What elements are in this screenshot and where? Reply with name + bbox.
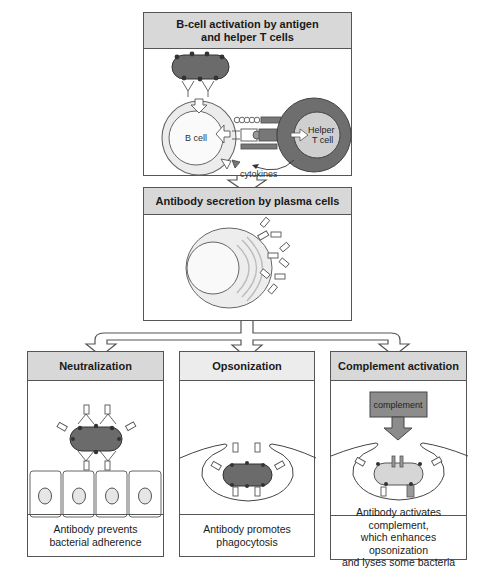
b-cell-activation-illustration: B cell Helper T cell cytokine — [144, 49, 353, 177]
plasma-cell-icon — [186, 228, 272, 308]
complement-inset-label: complement — [373, 400, 423, 410]
complement-header: Complement activation — [331, 352, 466, 381]
complement-caption-line3: and lyses some bacteria — [342, 556, 455, 569]
cytokines-label: cytokines — [240, 169, 278, 179]
opsonization-caption: Antibody promotes phagocytosis — [180, 514, 314, 556]
activation-title-line2: and helper T cells — [201, 31, 294, 44]
plasma-cell-illustration — [144, 215, 353, 322]
bacterium-icon — [172, 52, 229, 82]
helper-t-cell-label-line1: Helper — [308, 125, 335, 135]
neutralization-title: Neutralization — [59, 360, 132, 373]
opsonization-panel: Opsonization Antibody promotes phagocyto… — [179, 351, 315, 557]
complement-caption: Antibody activates complement, which enh… — [331, 515, 466, 559]
helper-t-cell-label-line2: T cell — [312, 135, 333, 145]
opsonization-caption-line2: phagocytosis — [216, 536, 277, 549]
lysed-bacterium-icon — [374, 463, 423, 485]
complement-title: Complement activation — [338, 360, 459, 373]
secretion-header: Antibody secretion by plasma cells — [144, 188, 351, 215]
activation-title-line1: B-cell activation by antigen — [176, 18, 318, 31]
opsonization-illustration — [180, 381, 316, 516]
secretion-title: Antibody secretion by plasma cells — [155, 195, 339, 208]
neutralization-caption: Antibody prevents bacterial adherence — [28, 514, 163, 556]
opsonization-caption-line1: Antibody promotes — [203, 523, 291, 536]
epithelial-cells — [28, 470, 163, 517]
complement-caption-line2: which enhances opsonization — [331, 531, 466, 556]
complement-box-icon: complement — [370, 392, 427, 440]
activation-panel: B-cell activation by antigen and helper … — [143, 12, 352, 176]
complement-illustration: complement — [331, 381, 468, 518]
opsonization-title: Opsonization — [212, 360, 282, 373]
b-cell-label: B cell — [185, 133, 207, 143]
neutralization-panel: Neutralization Antibody prevents — [27, 351, 164, 557]
opsonization-header: Opsonization — [180, 352, 314, 381]
secretion-panel: Antibody secretion by plasma cells — [143, 187, 352, 321]
complement-caption-line1: Antibody activates complement, — [331, 506, 466, 531]
b-cell-receptor-icon — [182, 81, 214, 97]
neutralization-caption-line1: Antibody prevents — [53, 523, 137, 536]
activation-header: B-cell activation by antigen and helper … — [144, 13, 351, 49]
helper-t-cell-icon: Helper T cell — [277, 98, 351, 172]
bacterium-icon — [223, 464, 272, 486]
b-cell-icon: B cell — [162, 99, 240, 175]
complement-panel: Complement activation complement Antibod… — [330, 351, 467, 560]
neutralization-caption-line2: bacterial adherence — [49, 536, 141, 549]
neutralization-header: Neutralization — [28, 352, 163, 381]
bacterium-icon — [70, 427, 122, 451]
